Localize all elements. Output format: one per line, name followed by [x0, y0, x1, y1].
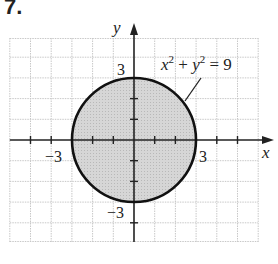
y-axis-label: y: [111, 18, 121, 37]
equation-leader-line: [185, 78, 201, 101]
x-axis-label: x: [261, 143, 270, 162]
tick-label-x-neg: −3: [45, 148, 62, 165]
tick-label-y-neg: −3: [107, 204, 124, 221]
y-axis-arrow-icon: [130, 23, 138, 35]
tick-label-x-pos: 3: [199, 148, 207, 165]
graph: y x 3 −3 −3 3 x2 + y2 = 9: [0, 0, 278, 264]
tick-label-y-pos: 3: [117, 61, 125, 78]
equation-label: x2 + y2 = 9: [160, 53, 232, 74]
